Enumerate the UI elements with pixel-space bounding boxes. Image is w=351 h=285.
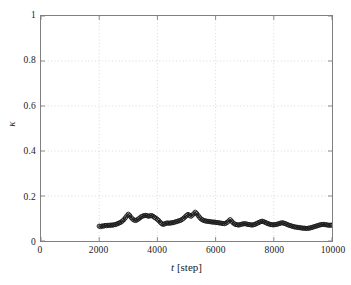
y-tick-label: 1 [31, 10, 36, 20]
x-tick-label: 4000 [147, 245, 167, 255]
y-tick-label: 0 [31, 237, 36, 247]
x-axis-label-variable: t [171, 261, 174, 273]
y-tick-label: 0.6 [24, 101, 36, 111]
x-tick-label: 6000 [206, 245, 226, 255]
x-tick-label: 8000 [264, 245, 284, 255]
figure-container: 00.20.40.60.81 0200040006000800010000 t … [0, 0, 351, 285]
y-tick-label: 0.8 [24, 55, 36, 65]
x-tick-label: 10000 [321, 245, 346, 255]
y-tick-label: 0.2 [24, 192, 36, 202]
data-series-layer [41, 16, 332, 241]
x-tick-label: 2000 [89, 245, 109, 255]
plot-area [40, 15, 333, 242]
y-axis-label: κ [5, 115, 17, 133]
x-tick-label: 0 [38, 245, 43, 255]
x-axis-label-unit: [step] [177, 261, 202, 273]
x-axis-label: t [step] [40, 261, 333, 273]
y-tick-label: 0.4 [24, 146, 36, 156]
x-axis-tick-labels: 0200040006000800010000 [40, 245, 333, 259]
